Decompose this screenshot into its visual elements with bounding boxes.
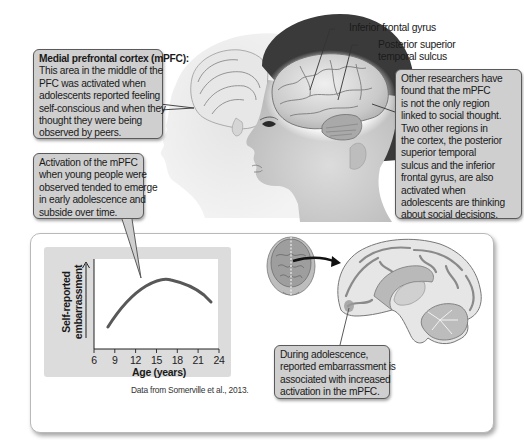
callout-text: subside over time. bbox=[39, 207, 139, 219]
x-tick-label: 9 bbox=[105, 354, 125, 366]
x-tick-label: 15 bbox=[147, 354, 167, 366]
callout-text: reported embarrassment is bbox=[280, 361, 385, 373]
x-tick-label: 12 bbox=[126, 354, 146, 366]
callout-text: is not the only region bbox=[401, 98, 517, 110]
y-axis-label-line2: embarrassment bbox=[72, 262, 84, 342]
callout-text: linked to social thought. bbox=[401, 110, 517, 122]
callout-text: This area in the middle of the bbox=[39, 65, 158, 77]
y-axis-label: Self-reported embarrassment bbox=[60, 262, 84, 342]
callout-text: about social decisions. bbox=[401, 209, 517, 221]
callout-text: adolescents reported feeling bbox=[39, 90, 158, 102]
label-posterior-superior-temporal-sulcus-line2: temporal sulcus bbox=[378, 51, 447, 64]
callout-text: frontal gyrus, are also bbox=[401, 172, 517, 184]
callout-text: adolescents are thinking bbox=[401, 197, 517, 209]
callout-text: PFC was activated when bbox=[39, 78, 158, 90]
callout-text: Other researchers have bbox=[401, 73, 517, 85]
callout-activation: Activation of the mPFC when young people… bbox=[33, 153, 144, 219]
data-source-note: Data from Somerville et al., 2013. bbox=[131, 385, 248, 395]
label-inferior-frontal-gyrus: Inferior frontal gyrus bbox=[349, 22, 436, 35]
callout-text: the cortex, the posterior bbox=[401, 135, 517, 147]
callout-embarrassment: During adolescence, reported embarrassme… bbox=[274, 345, 390, 399]
callout-text: thought they were being bbox=[39, 115, 158, 127]
callout-text: observed tended to emerge bbox=[39, 182, 139, 194]
callout-text: associated with increased bbox=[280, 374, 385, 386]
callout-text: Activation of the mPFC bbox=[39, 157, 139, 169]
callout-text: sulcus and the inferior bbox=[401, 160, 517, 172]
x-tick-label: 6 bbox=[84, 354, 104, 366]
x-tick-label: 24 bbox=[209, 354, 229, 366]
callout-text: activated when bbox=[401, 185, 517, 197]
callout-text: self-conscious and when they bbox=[39, 103, 158, 115]
callout-text: activation in the mPFC. bbox=[280, 386, 385, 398]
x-tick-label: 21 bbox=[188, 354, 208, 366]
callout-text: superior temporal bbox=[401, 147, 517, 159]
callout-text: found that the mPFC bbox=[401, 85, 517, 97]
callout-text: in early adolescence and bbox=[39, 194, 139, 206]
callout-mpfc: Medial prefrontal cortex (mPFC): This ar… bbox=[33, 49, 163, 139]
callout-text: Two other regions in bbox=[401, 123, 517, 135]
callout-text: observed by peers. bbox=[39, 127, 158, 139]
y-axis-label-line1: Self-reported bbox=[60, 262, 72, 342]
callout-other-regions: Other researchers have found that the mP… bbox=[395, 69, 522, 219]
label-posterior-superior-temporal-sulcus-line1: Posterior superior bbox=[378, 39, 456, 52]
x-axis-label: Age (years) bbox=[132, 366, 186, 378]
callout-text: During adolescence, bbox=[280, 349, 385, 361]
callout-text: when young people were bbox=[39, 169, 139, 181]
callout-mpfc-title: Medial prefrontal cortex (mPFC): bbox=[39, 53, 158, 65]
x-tick-label: 18 bbox=[167, 354, 187, 366]
